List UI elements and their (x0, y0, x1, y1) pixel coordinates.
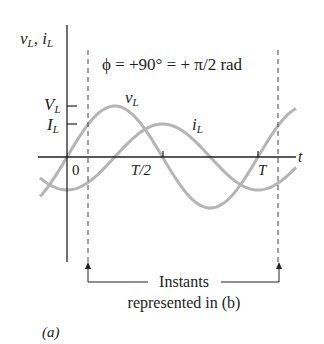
arrow-up-left (85, 262, 91, 269)
y-axis-label: vL, iL (20, 29, 53, 49)
curve-label-voltage: vL (125, 88, 139, 108)
tick-label-full: T (258, 162, 268, 178)
phasor-time-plot: vL, iL ϕ = +90° = + π/2 rad VL IL vL iL … (0, 0, 324, 344)
bracket-right (221, 268, 279, 282)
tick-label-half: T/2 (131, 162, 152, 178)
curve-label-current: iL (192, 115, 203, 135)
amplitude-label-voltage: VL (44, 95, 61, 115)
amplitude-label-current: IL (46, 115, 59, 135)
phase-label: ϕ = +90° = + π/2 rad (102, 55, 243, 74)
annotation-line2: represented in (b) (128, 294, 241, 312)
x-axis-label: t (298, 148, 303, 165)
tick-label-origin: 0 (72, 162, 80, 178)
annotation-line1: Instants (159, 273, 209, 290)
panel-label: (a) (42, 324, 60, 341)
arrow-up-right (276, 262, 282, 269)
bracket-left (88, 268, 148, 282)
